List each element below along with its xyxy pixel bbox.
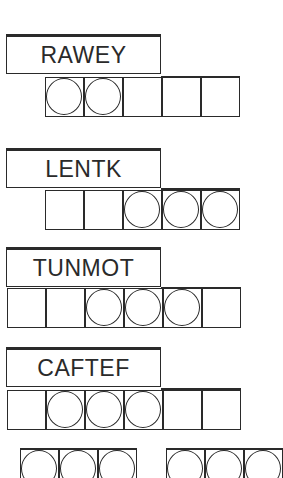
answer-cell[interactable] (7, 288, 46, 328)
answer-cell-circled[interactable] (163, 288, 202, 328)
answer-cell-circled[interactable] (85, 288, 124, 328)
answer-cell-circled[interactable] (162, 190, 201, 230)
scrambled-word: CAFTEF (6, 347, 161, 387)
answer-cell[interactable] (202, 390, 241, 430)
answer-cell-circled[interactable] (46, 390, 85, 430)
answer-cell-circled[interactable] (84, 77, 123, 117)
final-answer-cell[interactable] (205, 448, 244, 478)
scrambled-word: LENTK (6, 148, 161, 188)
answer-cell-circled[interactable] (124, 390, 163, 430)
final-answer-cell[interactable] (20, 448, 59, 478)
scrambled-word: TUNMOT (6, 247, 161, 287)
answer-cell[interactable] (45, 190, 84, 230)
answer-cell[interactable] (7, 390, 46, 430)
answer-cell-circled[interactable] (45, 77, 84, 117)
final-answer-cell[interactable] (98, 448, 137, 478)
scrambled-word: RAWEY (6, 34, 161, 74)
answer-cell-circled[interactable] (124, 288, 163, 328)
answer-cell[interactable] (162, 77, 201, 117)
answer-cell-circled[interactable] (85, 390, 124, 430)
answer-cell[interactable] (202, 288, 241, 328)
answer-cell-circled[interactable] (123, 190, 162, 230)
answer-cell[interactable] (46, 288, 85, 328)
answer-cell[interactable] (84, 190, 123, 230)
answer-cell-circled[interactable] (201, 190, 240, 230)
final-answer-cell[interactable] (59, 448, 98, 478)
answer-cell[interactable] (163, 390, 202, 430)
answer-cell[interactable] (201, 77, 240, 117)
final-answer-cell[interactable] (244, 448, 283, 478)
answer-cell[interactable] (123, 77, 162, 117)
final-answer-cell[interactable] (166, 448, 205, 478)
